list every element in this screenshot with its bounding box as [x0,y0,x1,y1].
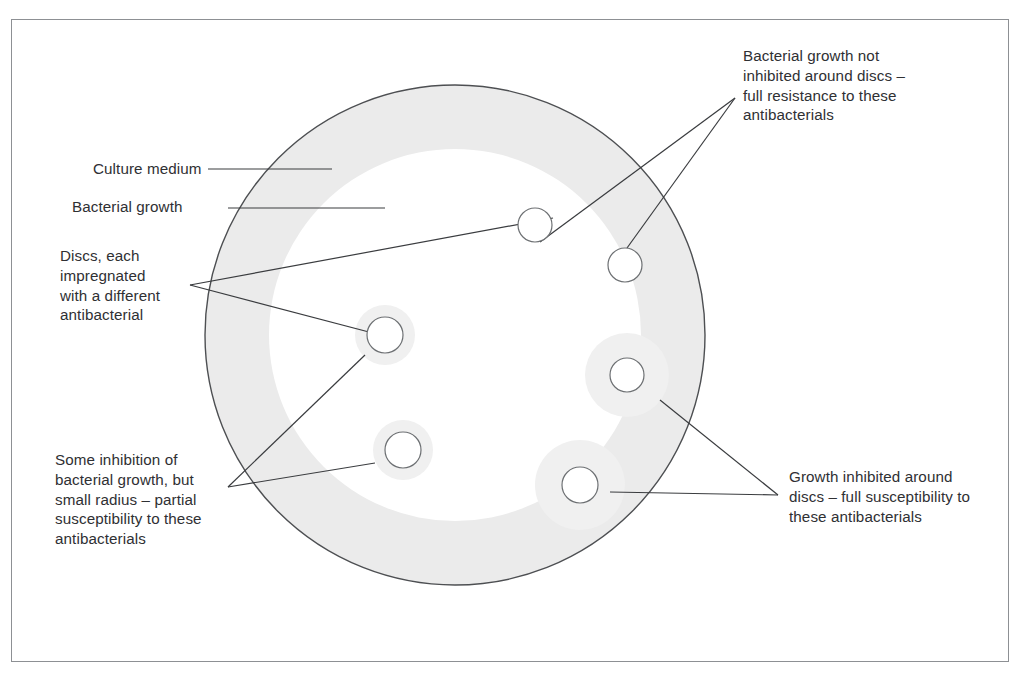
label-bacterial-growth: Bacterial growth [72,197,183,217]
figure-canvas: Culture medium Bacterial growth Discs, e… [0,0,1017,682]
antibacterial-disc-5 [610,358,644,392]
label-culture-medium: Culture medium [93,159,202,179]
label-partial-susceptibility: Some inhibition of bacterial growth, but… [55,450,202,549]
antibacterial-disc-4 [385,432,421,468]
label-discs-impregnated: Discs, each impregnated with a different… [60,246,160,325]
antibacterial-disc-3 [367,317,403,353]
antibacterial-disc-2 [608,248,642,282]
label-full-susceptibility: Growth inhibited around discs – full sus… [789,467,970,526]
label-full-resistance: Bacterial growth not inhibited around di… [743,46,905,125]
antibacterial-disc-6 [562,467,598,503]
antibacterial-disc-1 [518,208,552,242]
